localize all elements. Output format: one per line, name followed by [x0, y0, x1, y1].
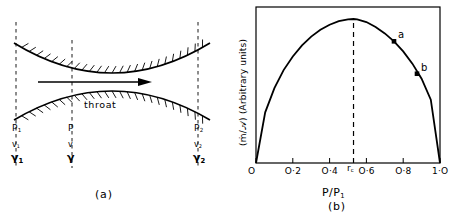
x-tick-label-5: 1·O [432, 166, 448, 176]
station-mid-specific-volume-label: γ [67, 152, 75, 165]
plot-frame [256, 7, 440, 163]
x-tick-label-0: O [248, 166, 255, 176]
marker-label-a: a [398, 29, 404, 40]
station-mid-pressure-label: P [68, 124, 74, 134]
x-tick-label-2: O·4 [322, 166, 338, 176]
x-tick-label-3: O·6 [358, 166, 374, 176]
station-2-velocity-label: v2 [194, 141, 202, 149]
throat-label: throat [84, 100, 116, 110]
station-2-specific-volume-label: γ2 [193, 152, 205, 165]
y-axis-title: (ṁ/𝒜) (Arbitrary units) [238, 39, 249, 146]
station-1-velocity-label: v1 [12, 141, 20, 149]
upper-wall-hatching [22, 39, 203, 73]
panel-b-mass-flux-chart: (ṁ/𝒜) (Arbitrary units) OO·2O·4O·6O·81·O… [225, 0, 451, 215]
marker-b [415, 71, 420, 76]
panel-a-nozzle-diagram: P1 v1 γ1 P v γ P2 v2 γ2 throat (a) [0, 0, 225, 215]
panel-a-caption: (a) [95, 188, 113, 201]
panel-b-caption: (b) [328, 200, 346, 213]
marker-label-b: b [421, 62, 427, 73]
mass-flux-plot [225, 0, 451, 215]
x-axis-title: P/P1 [322, 186, 345, 200]
station-2-pressure-label: P2 [194, 124, 204, 134]
flow-direction-arrow [38, 78, 152, 86]
upper-wall-curve [14, 43, 210, 73]
station-1-pressure-label: P1 [12, 124, 22, 134]
critical-ratio-label: rc [347, 163, 354, 173]
x-tick-label-4: O·8 [395, 166, 411, 176]
station-mid-velocity-label: v [68, 141, 73, 149]
mass-flux-curve [256, 19, 440, 163]
station-1-specific-volume-label: γ1 [11, 152, 23, 165]
x-tick-label-1: O·2 [285, 166, 301, 176]
figure-venturi-flow: P1 v1 γ1 P v γ P2 v2 γ2 throat (a) (ṁ/𝒜)… [0, 0, 451, 215]
marker-a [392, 39, 397, 44]
